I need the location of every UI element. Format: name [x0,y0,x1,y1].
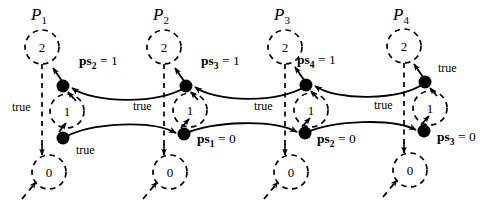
process-label-p3-name: P [274,5,284,24]
incoming-stub-p1 [22,182,36,199]
state-value-p4-2: 2 [398,40,410,53]
process-label-p1-index: 1 [41,14,47,26]
ps-equals: = [218,131,226,146]
state-value-p3-2: 2 [279,41,291,54]
guard-label-p3-axis: true [254,100,273,112]
transition-p4-1-to-upper [430,88,437,96]
ps-equals: = [222,53,230,68]
message-upper-p3-to-p2 [195,86,306,99]
ps-index: 2 [92,61,97,71]
state-value-p3-1: 1 [305,104,317,117]
state-value-p2-0: 0 [164,166,176,179]
ps-value: 0 [469,129,476,144]
state-value-p4-0: 0 [404,164,416,177]
ps-label-ps2-eq-1: ps2 = 1 [79,54,118,71]
ps-index: 2 [330,139,335,149]
ps-index: 1 [210,139,215,149]
process-label-p3-index: 3 [284,14,290,26]
ps-symbol: ps [79,53,92,68]
ps-label-ps4-eq-1: ps4 = 1 [297,53,336,70]
event-node-p1-upper [57,80,70,93]
transition-p4-upper-to-2 [414,64,423,77]
process-label-p1-name: P [31,5,41,24]
ps-symbol: ps [201,53,214,68]
incoming-stub-p3 [264,182,278,199]
process-label-p1: P1 [31,6,47,26]
state-value-p1-0: 0 [43,166,55,179]
event-node-p2-upper [180,80,193,93]
ps-value: 1 [111,53,118,68]
state-value-p2-1: 1 [184,104,196,117]
transition-p1-upper-to-2 [53,68,62,81]
event-node-p4-upper [419,76,432,89]
process-label-p2-name: P [153,5,163,24]
process-label-p4-index: 4 [403,14,409,26]
ps-label-ps3-eq-1: ps3 = 1 [201,54,240,71]
ps-equals: = [338,131,346,146]
process-label-p3: P3 [274,6,290,26]
transition-p1-lower-to-1 [59,123,66,132]
ps-index: 3 [450,137,455,147]
process-label-p4: P4 [393,6,409,26]
state-value-p2-2: 2 [158,41,170,54]
ps-index: 3 [214,61,219,71]
ps-value: 1 [233,53,240,68]
process-label-p2-index: 2 [163,14,169,26]
ps-equals: = [458,129,466,144]
state-value-p3-0: 0 [285,166,297,179]
ps-label-ps1-eq-0: ps1 = 0 [197,132,236,149]
diagram-canvas: P1 P2 P3 P4 2 2 2 2 1 1 1 1 0 0 0 0 true… [0,0,487,205]
process-label-p4-name: P [393,5,403,24]
transition-p1-1-to-upper [68,92,76,101]
message-upper-p2-to-p1 [72,87,186,100]
event-node-p2-lower [178,128,191,141]
ps-value: 1 [329,52,336,67]
state-value-p1-2: 2 [36,41,48,54]
message-lower-p1-to-p2 [63,124,176,138]
ps-equals: = [100,53,108,68]
guard-label-p1-axis: true [12,101,31,113]
event-node-p4-lower [418,125,431,138]
guard-label-p2-axis: true [133,100,152,112]
ps-equals: = [318,52,326,67]
incoming-stub-p2 [143,182,157,199]
process-label-p2: P2 [153,6,169,26]
ps-symbol: ps [197,131,210,146]
event-node-p3-upper [300,79,313,92]
ps-symbol: ps [437,129,450,144]
ps-value: 0 [229,131,236,146]
guard-label-p4-upper: true [438,62,457,74]
ps-symbol: ps [297,52,310,67]
transition-p2-upper-to-2 [175,68,184,81]
event-node-p1-lower [57,132,70,145]
message-upper-p4-to-p3 [315,83,425,97]
state-value-p1-1: 1 [61,105,73,118]
guard-label-p1-lower: true [76,144,95,156]
ps-label-ps3-eq-0: ps3 = 0 [437,130,476,147]
event-node-p3-lower [299,127,312,140]
state-value-p4-1: 1 [424,102,436,115]
ps-symbol: ps [317,131,330,146]
ps-index: 4 [310,60,315,70]
guard-label-p4-axis: true [374,99,393,111]
ps-label-ps2-eq-0: ps2 = 0 [317,132,356,149]
ps-value: 0 [349,131,356,146]
incoming-stub-p4 [383,180,397,197]
transition-p3-1-to-upper [311,91,318,99]
